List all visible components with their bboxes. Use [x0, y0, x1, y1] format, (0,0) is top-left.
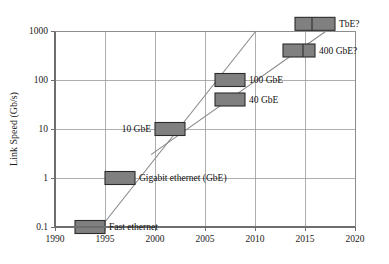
y-axis-title: Link Speed (Gb/s) — [8, 92, 20, 166]
bar-label-0: Fast ethernet — [109, 222, 158, 232]
bar-4 — [215, 74, 245, 87]
bar-5 — [283, 44, 315, 57]
x-tick-label-5: 2015 — [296, 234, 315, 244]
bar-1 — [105, 172, 135, 185]
bar-label-2: 10 GbE — [122, 124, 151, 134]
x-tick-label-1: 1995 — [96, 234, 115, 244]
bar-label-5: 400 GbE? — [319, 46, 357, 56]
x-tick-label-4: 2010 — [246, 234, 265, 244]
y-tick-label-0: 0.1 — [36, 222, 48, 232]
bar-3 — [215, 93, 245, 106]
y-tick-label-2: 10 — [39, 124, 49, 134]
link-speed-chart: 0.11101001000 19901995200020052010201520… — [0, 0, 389, 264]
y-tick-label-4: 1000 — [29, 26, 48, 36]
x-tick-label-6: 2020 — [346, 234, 365, 244]
bar-label-4: 100 GbE — [249, 75, 283, 85]
x-tick-label-0: 1990 — [46, 234, 65, 244]
x-tick-label-3: 2005 — [196, 234, 215, 244]
bar-label-1: Gigabit ethernet (GbE) — [139, 173, 227, 184]
y-tick-label-1: 1 — [43, 173, 48, 183]
y-tick-label-3: 100 — [34, 75, 49, 85]
bar-6 — [295, 17, 335, 30]
bar-label-3: 40 GbE — [249, 95, 278, 105]
chart-background — [0, 0, 389, 264]
bar-label-6: TbE? — [339, 19, 360, 29]
x-tick-label-2: 2000 — [146, 234, 165, 244]
chart-figure: 0.11101001000 19901995200020052010201520… — [0, 0, 389, 264]
bar-2 — [155, 123, 185, 136]
